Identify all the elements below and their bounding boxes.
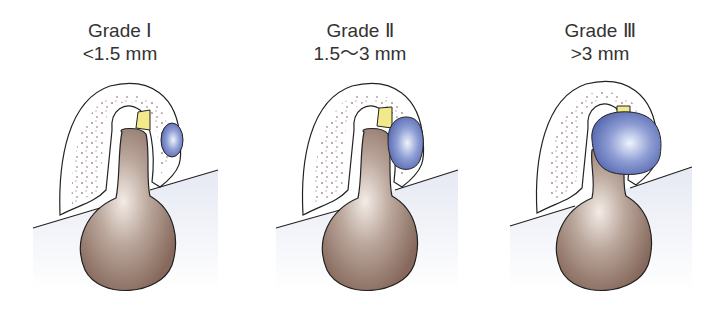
grade-1-illustration — [0, 0, 240, 320]
stalk-tip — [136, 110, 150, 130]
grade-3-illustration — [480, 0, 720, 320]
panel-grade-1: Grade Ⅰ <1.5 mm — [0, 0, 240, 320]
stalk-tip — [377, 107, 392, 128]
panel-grade-2: Grade Ⅱ 1.5～3 mm — [240, 0, 480, 320]
cyst — [592, 112, 661, 175]
grade-2-illustration — [240, 0, 480, 320]
cyst — [161, 123, 183, 157]
panel-grade-3: Grade Ⅲ >3 mm — [480, 0, 720, 320]
cyst — [388, 117, 423, 169]
